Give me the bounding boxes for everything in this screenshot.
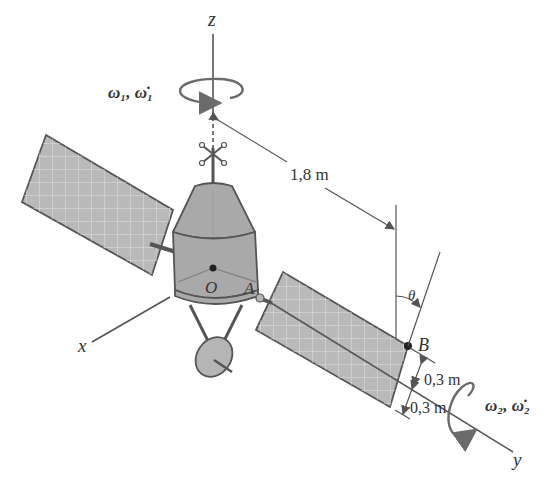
body-rotation-label: ω₁, ω̇₁ xyxy=(108,83,153,102)
dish-antenna-icon xyxy=(188,305,242,384)
theta-label: θ xyxy=(408,287,416,303)
dimension-0-3m-label-1: 0,3 m xyxy=(424,371,461,388)
right-solar-panel xyxy=(256,272,408,407)
z-axis-label: z xyxy=(207,8,216,30)
satellite-diagram: z ω₁, ω̇₁ 1,8 m x O xyxy=(0,0,556,481)
x-axis-label: x xyxy=(77,335,87,356)
panel-rotation-label: ω₂, ω̇₂ xyxy=(485,396,530,415)
point-O-marker xyxy=(210,265,217,272)
point-B-label: B xyxy=(418,335,429,355)
point-O-label: O xyxy=(205,278,217,297)
panel-rotation-arrow-icon xyxy=(448,383,473,437)
x-axis xyxy=(92,297,170,342)
point-A-joint xyxy=(256,294,264,302)
body-rotation-arrow-icon xyxy=(180,79,243,103)
left-solar-panel xyxy=(22,135,176,275)
dimension-0-3m-label-2: 0,3 m xyxy=(410,399,447,416)
dimension-1-8m-label: 1,8 m xyxy=(290,165,329,184)
point-A-label: A xyxy=(243,279,255,298)
y-axis-label: y xyxy=(511,449,522,470)
